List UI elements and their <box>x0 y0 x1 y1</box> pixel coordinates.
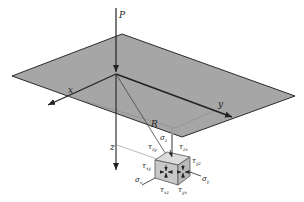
tau-zy-label: τzy <box>148 143 157 152</box>
radius-label: R <box>150 119 158 129</box>
y-axis-label: y <box>217 99 224 109</box>
stress-element-cube <box>155 152 190 185</box>
z-axis-label: z <box>109 142 115 152</box>
tau-zx-label: τzx <box>179 143 188 152</box>
sigma-x-label: σx <box>135 176 143 185</box>
tau-xz-label: τxz <box>160 186 169 195</box>
tau-yz-label: τyz <box>192 157 201 166</box>
sigma-y-label: σy <box>202 175 210 184</box>
half-space-diagram: P x y z R σz τzy τzx τxy τyz σx σy τxz τ… <box>0 0 304 202</box>
load-label: P <box>118 10 126 20</box>
x-axis-label: x <box>68 85 73 95</box>
sigma-z-label: σz <box>160 134 168 143</box>
tau-yx-label: τyx <box>178 186 187 195</box>
tau-xy-label: τxy <box>142 162 151 171</box>
